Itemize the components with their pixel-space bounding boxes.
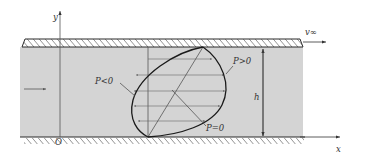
y-axis-label: y [52, 12, 58, 22]
fluid-region [20, 47, 303, 137]
plate-velocity-label: v∞ [305, 27, 317, 37]
couette-flow-diagram: y O x v∞ h P<0 P>0 P=0 [0, 0, 366, 159]
lower-wall [20, 137, 305, 144]
pressure-negative-label: P<0 [94, 76, 114, 86]
pressure-positive-label: P>0 [232, 56, 252, 66]
upper-plate [22, 39, 303, 47]
origin-label: O [55, 137, 62, 147]
x-axis-label: x [336, 144, 341, 154]
gap-height-label: h [254, 92, 259, 102]
pressure-zero-label: P=0 [205, 123, 225, 133]
